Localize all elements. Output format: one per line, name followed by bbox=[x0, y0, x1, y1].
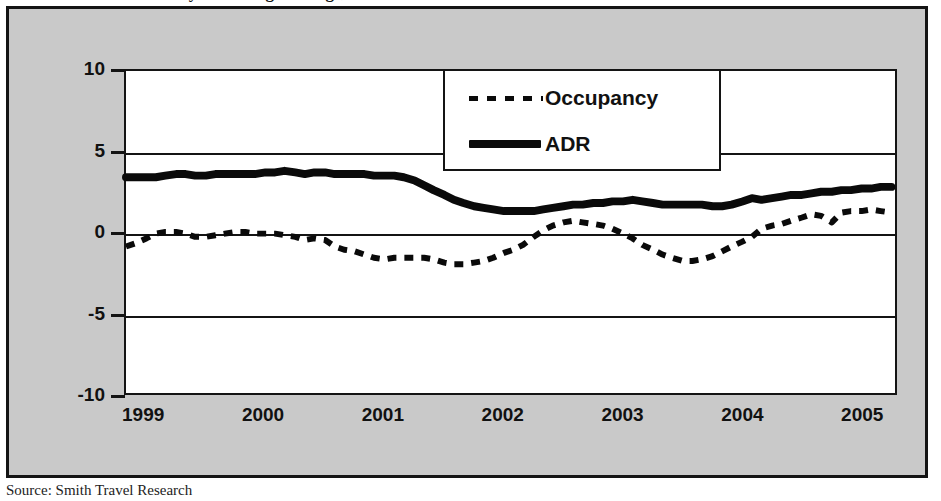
dashed-line-swatch-icon bbox=[469, 88, 547, 108]
y-tick-mark-0 bbox=[111, 232, 125, 235]
y-tick-mark--10 bbox=[111, 395, 125, 398]
y-tick-label-5: 5 bbox=[49, 141, 105, 160]
x-tick-label-2004: 2004 bbox=[697, 405, 787, 424]
y-tick-label-0: 0 bbox=[49, 222, 105, 241]
legend-label-occupancy: Occupancy bbox=[545, 86, 658, 110]
chart-title-text: Monthly Percentage Change, Year-to-Date bbox=[135, 0, 442, 3]
source-note: Source: Smith Travel Research bbox=[6, 484, 506, 501]
adr-series-line bbox=[126, 171, 891, 211]
x-tick-label-1999: 1999 bbox=[98, 405, 188, 424]
y-tick-mark--5 bbox=[111, 314, 125, 317]
x-tick-label-2002: 2002 bbox=[458, 405, 548, 424]
y-tick-mark-10 bbox=[111, 69, 125, 72]
y-tick-label--5: -5 bbox=[49, 304, 105, 323]
chart-panel: 1050-5-10 1999200020012002200320042005 O… bbox=[6, 6, 928, 478]
legend-entry-occupancy: Occupancy bbox=[445, 75, 719, 121]
chart-legend: Occupancy ADR bbox=[443, 69, 721, 171]
y-tick-mark-5 bbox=[111, 151, 125, 154]
legend-entry-adr: ADR bbox=[445, 121, 719, 167]
chart-figure: Monthly Percentage Change, Year-to-Date … bbox=[0, 0, 941, 501]
x-tick-label-2000: 2000 bbox=[218, 405, 308, 424]
x-tick-label-2003: 2003 bbox=[578, 405, 668, 424]
y-tick-label--10: -10 bbox=[49, 385, 105, 404]
x-tick-label-2005: 2005 bbox=[817, 405, 907, 424]
solid-line-swatch-icon bbox=[469, 134, 547, 154]
y-tick-label-10: 10 bbox=[49, 59, 105, 78]
x-tick-label-2001: 2001 bbox=[338, 405, 428, 424]
source-note-text: Source: Smith Travel Research bbox=[6, 484, 192, 499]
legend-label-adr: ADR bbox=[545, 132, 591, 156]
occupancy-series-line bbox=[126, 209, 891, 264]
